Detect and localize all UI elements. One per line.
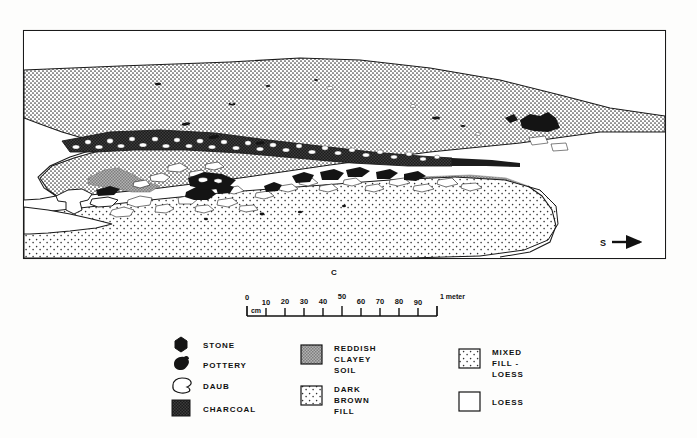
scale-tick-10: 10 xyxy=(262,298,270,307)
mixed-fill-loess-swatch-icon xyxy=(459,349,480,368)
legend-label-loess-mixed: LOESS xyxy=(492,370,524,379)
legend-label-reddish: REDDISH xyxy=(334,344,376,353)
legend-item-stone: STONE xyxy=(175,337,235,352)
legend-label-loess: LOESS xyxy=(492,398,524,407)
scale-tick-80: 80 xyxy=(395,297,403,306)
reddish-clayey-soil-swatch-icon xyxy=(301,345,322,364)
legend-item-daub: DAUB xyxy=(173,378,230,393)
scale-tick-0: 0 xyxy=(245,293,249,302)
scale-tick-60: 60 xyxy=(357,297,365,306)
legend-column-finds: STONE POTTERY DAUB CHARCOAL xyxy=(172,337,256,416)
pottery-icon xyxy=(174,356,189,370)
scale-tick-40: 40 xyxy=(319,297,327,306)
dark-brown-fill-swatch-icon xyxy=(301,386,322,405)
stratigraphy-group xyxy=(24,31,665,258)
loess-swatch-icon xyxy=(459,392,480,411)
legend-item-loess: LOESS xyxy=(459,392,524,411)
scale-tick-90: 90 xyxy=(414,298,422,307)
scale-tick-20: 20 xyxy=(281,297,289,306)
scale-tick-30: 30 xyxy=(300,297,308,306)
legend-column-soils: REDDISH CLAYEY SOIL DARK BROWN FILL xyxy=(301,344,376,416)
stone-icon xyxy=(175,337,187,352)
section-label: C xyxy=(331,268,337,277)
legend-item-mixed-fill-loess: MIXED FILL - LOESS xyxy=(459,348,524,379)
legend-item-reddish-clayey-soil: REDDISH CLAYEY SOIL xyxy=(301,344,376,375)
legend-item-charcoal: CHARCOAL xyxy=(172,400,256,416)
legend-item-dark-brown-fill: DARK BROWN FILL xyxy=(301,385,370,416)
charcoal-swatch-icon xyxy=(172,400,190,416)
legend-label-mixed: MIXED xyxy=(492,348,522,357)
legend-label-fill: FILL xyxy=(334,407,354,416)
direction-label: S xyxy=(600,238,606,248)
scale-tick-70: 70 xyxy=(376,297,384,306)
stratigraphic-section-figure: C S 0 10 20 30 40 50 60 70 80 xyxy=(0,0,697,438)
legend-label-brown: BROWN xyxy=(334,396,370,405)
daub-icon xyxy=(173,378,191,393)
legend-label-clayey: CLAYEY xyxy=(334,355,371,364)
legend-item-pottery: POTTERY xyxy=(174,356,247,370)
legend-label-pottery: POTTERY xyxy=(203,361,247,370)
legend-label-dark: DARK xyxy=(334,385,361,394)
legend-label-charcoal: CHARCOAL xyxy=(203,405,256,414)
scale-end-label: 1 meter xyxy=(440,293,465,300)
legend-label-soil: SOIL xyxy=(334,366,356,375)
scale-tick-50: 50 xyxy=(338,292,346,301)
scale-unit-label: cm xyxy=(251,307,261,314)
legend-label-fill-dash: FILL - xyxy=(492,359,519,368)
legend-column-loess: MIXED FILL - LOESS LOESS xyxy=(459,348,524,411)
legend-label-stone: STONE xyxy=(203,341,235,350)
legend-label-daub: DAUB xyxy=(203,382,230,391)
scale-bar: 0 10 20 30 40 50 60 70 80 90 cm 1 meter xyxy=(245,292,465,316)
